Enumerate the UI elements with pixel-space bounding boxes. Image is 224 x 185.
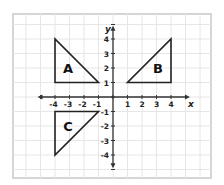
x-tick-label: -3 (64, 100, 72, 109)
y-tick-label: -4 (101, 151, 109, 160)
x-tick-label: -4 (49, 100, 57, 109)
y-tick-label: -1 (101, 108, 109, 117)
y-tick-label: 4 (104, 35, 109, 44)
y-tick-label: -2 (101, 122, 109, 131)
triangle-label-a: A (63, 61, 73, 76)
triangle-label-b: B (153, 61, 163, 76)
y-tick-label: 2 (104, 64, 109, 73)
x-tick-label: 4 (168, 100, 173, 109)
y-tick-label: -3 (101, 137, 109, 146)
x-tick-label: 1 (125, 100, 130, 109)
x-tick-label: 2 (139, 100, 144, 109)
x-tick-label: -2 (78, 100, 86, 109)
coordinate-plane-diagram: -4-3-2-112344321-1-2-3-4xy ABC (0, 0, 224, 185)
x-tick-label: 3 (154, 100, 159, 109)
y-tick-label: 3 (104, 50, 109, 59)
y-tick-label: 1 (104, 79, 109, 88)
x-axis-label: x (187, 99, 195, 109)
triangle-label-c: C (63, 119, 73, 134)
